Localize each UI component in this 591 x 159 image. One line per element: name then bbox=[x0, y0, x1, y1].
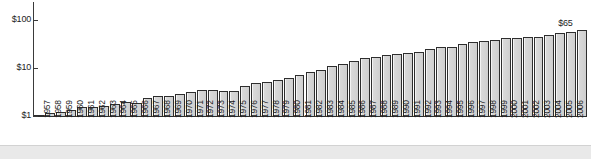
x-tick-label: 1973 bbox=[216, 100, 226, 118]
y-tick-mark bbox=[33, 20, 38, 21]
x-tick-label: 1981 bbox=[303, 100, 313, 118]
x-tick-label: 1964 bbox=[118, 100, 128, 118]
x-tick-label: 1968 bbox=[162, 100, 172, 118]
x-tick-label: 1986 bbox=[357, 100, 367, 118]
x-tick-label: 2006 bbox=[575, 100, 585, 118]
x-tick-label: 1974 bbox=[227, 100, 237, 118]
x-tick-label: 1989 bbox=[390, 100, 400, 118]
x-tick-label: 1969 bbox=[173, 100, 183, 118]
x-tick-label: 1972 bbox=[205, 100, 215, 118]
x-tick-label: 1977 bbox=[260, 100, 270, 118]
x-tick-label: 1962 bbox=[97, 100, 107, 118]
x-tick-label: 1961 bbox=[86, 100, 96, 118]
x-tick-label: 2003 bbox=[542, 100, 552, 118]
x-tick-label: 1965 bbox=[129, 100, 139, 118]
x-tick-label: 1999 bbox=[499, 100, 509, 118]
x-tick-label: 1988 bbox=[379, 100, 389, 118]
x-tick-label: 1983 bbox=[325, 100, 335, 118]
x-tick-label: 1998 bbox=[488, 100, 498, 118]
x-tick-label: 1970 bbox=[184, 100, 194, 118]
x-tick-label: 1958 bbox=[53, 100, 63, 118]
y-tick-label: $1 bbox=[21, 110, 31, 120]
x-tick-label: 1960 bbox=[75, 100, 85, 118]
x-tick-label: 1996 bbox=[466, 100, 476, 118]
x-tick-label: 2002 bbox=[531, 100, 541, 118]
y-tick-mark bbox=[33, 116, 38, 117]
x-tick-label: 1967 bbox=[151, 100, 161, 118]
x-tick-label: 1992 bbox=[423, 100, 433, 118]
x-tick-label: 1971 bbox=[195, 100, 205, 118]
x-tick-label: 1978 bbox=[271, 100, 281, 118]
y-tick-label: $100 bbox=[12, 14, 31, 24]
x-tick-label: 1957 bbox=[42, 100, 52, 118]
x-tick-label: 1980 bbox=[292, 100, 302, 118]
x-tick-label: 2000 bbox=[509, 100, 519, 118]
x-tick-label: 2004 bbox=[553, 100, 563, 118]
y-axis-labels: $1$10$100 bbox=[0, 0, 31, 130]
x-tick-label: 1976 bbox=[249, 100, 259, 118]
x-tick-label: 1993 bbox=[433, 100, 443, 118]
bar-value-label: $65 bbox=[558, 18, 572, 28]
x-tick-label: 1959 bbox=[64, 100, 74, 118]
x-tick-label: 1985 bbox=[347, 100, 357, 118]
chart-figure: $1$10$100 195719581959196019611962196319… bbox=[0, 0, 591, 159]
y-tick-mark bbox=[33, 68, 38, 69]
x-tick-label: 1991 bbox=[412, 100, 422, 118]
x-tick-label: 1987 bbox=[368, 100, 378, 118]
x-tick-label: 1979 bbox=[281, 100, 291, 118]
x-tick-label: 1994 bbox=[444, 100, 454, 118]
x-tick-label: 1966 bbox=[140, 100, 150, 118]
x-tick-label: 1984 bbox=[336, 100, 346, 118]
y-tick-label: $10 bbox=[17, 62, 31, 72]
page-bottom-band bbox=[0, 145, 591, 159]
x-tick-label: 1982 bbox=[314, 100, 324, 118]
x-tick-label: 1990 bbox=[401, 100, 411, 118]
x-tick-label: 1997 bbox=[477, 100, 487, 118]
x-tick-label: 2005 bbox=[564, 100, 574, 118]
x-tick-label: 1975 bbox=[238, 100, 248, 118]
x-tick-label: 2001 bbox=[520, 100, 530, 118]
x-tick-label: 1995 bbox=[455, 100, 465, 118]
x-tick-label: 1963 bbox=[108, 100, 118, 118]
